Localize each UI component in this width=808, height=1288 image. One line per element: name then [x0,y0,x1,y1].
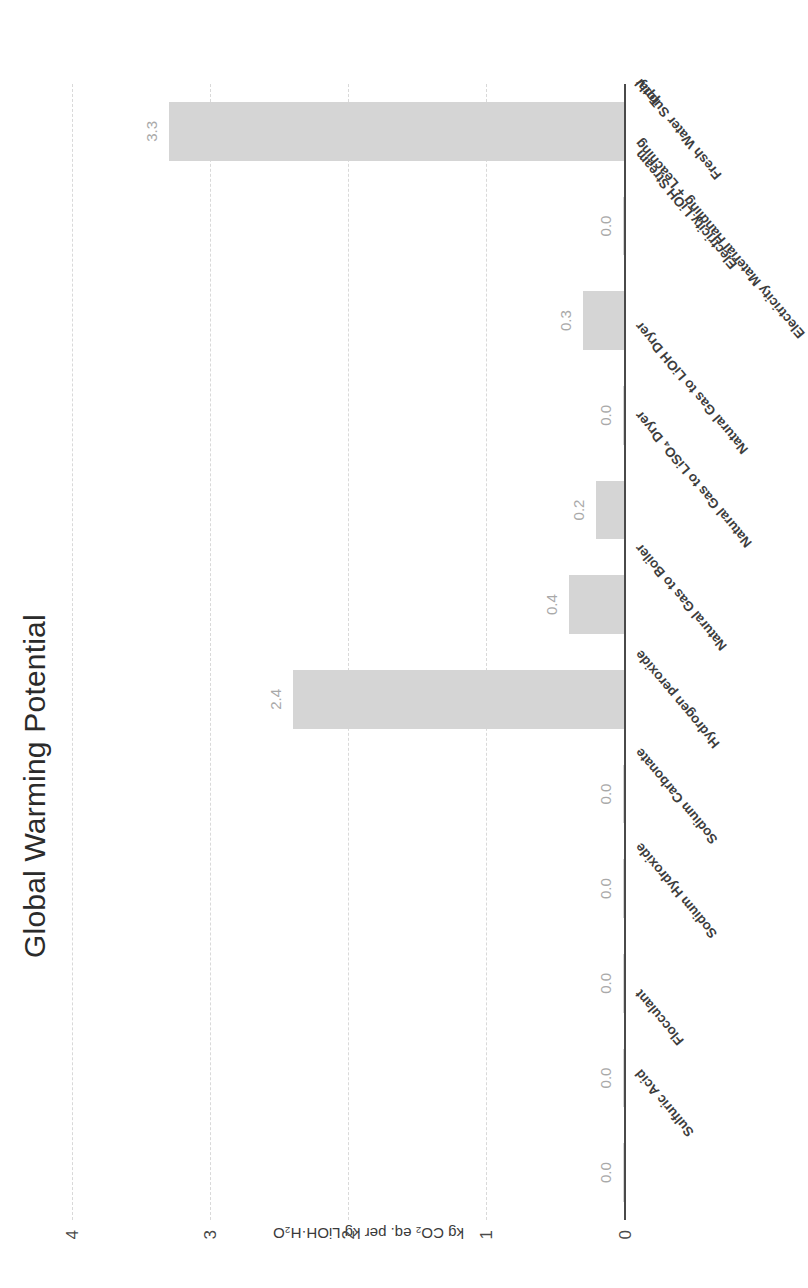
gridline-0: 0 [624,84,626,1220]
bar[interactable] [569,575,624,634]
bar[interactable] [623,859,624,918]
bar-value-label: 0.0 [597,1162,614,1183]
y-axis-tick-2: 2 [339,1230,359,1239]
bar-value-label: 0.0 [597,878,614,899]
bar-value-label: 0.2 [570,500,587,521]
bar[interactable] [596,481,624,540]
category-label: Natural Gas to Boiler [632,541,730,654]
category-label: Electricity LiOH Stream [632,147,740,272]
bar[interactable] [623,197,624,256]
y-axis-tick-0: 0 [616,1230,636,1239]
bar-value-label: 0.0 [597,216,614,237]
bar[interactable] [583,291,624,350]
bar-value-label: 0.0 [597,1068,614,1089]
bar[interactable] [293,670,624,729]
gridline-1: 1 [486,84,487,1220]
bar[interactable] [169,102,624,161]
category-label: Sulfuric Acid [632,1066,697,1139]
gridline-4: 4 [72,84,73,1220]
category-label: Flocculant [632,987,687,1048]
category-label: Sodium Carbonate [632,745,721,847]
bar-value-label: 3.3 [143,121,160,142]
bar-value-label: 0.0 [597,973,614,994]
bar-value-label: 2.4 [267,689,284,710]
y-axis-tick-3: 3 [201,1230,221,1239]
gridline-2: 2 [348,84,349,1220]
y-axis-tick-1: 1 [477,1230,497,1239]
bar[interactable] [623,1143,624,1202]
bar[interactable] [623,954,624,1013]
gridline-3: 3 [210,84,211,1220]
category-label: Sodium Hydroxide [632,840,720,941]
bar[interactable] [623,1049,624,1108]
bar-value-label: 0.3 [557,310,574,331]
y-axis-tick-4: 4 [63,1230,83,1239]
bar-value-label: 0.0 [597,784,614,805]
chart-title: Global Warming Potential [18,614,52,958]
category-label: Hydrogen peroxide [632,647,723,751]
plot-area: 012340.0Sulfuric Acid0.0Flocculant0.0Sod… [72,84,624,1220]
bar-value-label: 0.0 [597,405,614,426]
bar[interactable] [623,386,624,445]
bar-value-label: 0.4 [543,594,560,615]
bar[interactable] [623,765,624,824]
